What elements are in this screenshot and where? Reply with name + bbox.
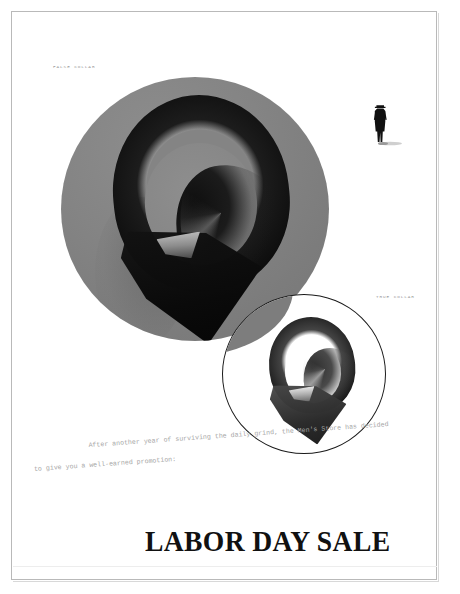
ad-page: FALSE COLLAR TRUE COLLAR After another y… <box>0 0 460 594</box>
bottom-rule <box>13 566 437 567</box>
headline: LABOR DAY SALE <box>145 524 390 558</box>
label-true-collar: TRUE COLLAR <box>376 294 415 299</box>
walking-man-silhouette-icon <box>366 98 406 148</box>
label-false-collar: FALSE COLLAR <box>53 64 95 69</box>
